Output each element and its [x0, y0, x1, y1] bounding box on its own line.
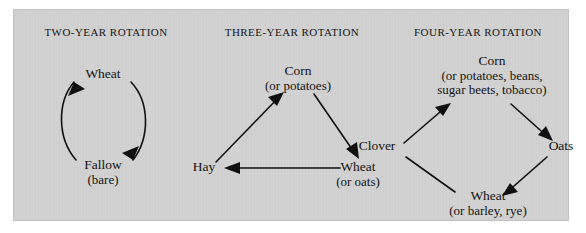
node-label-main: Wheat: [340, 159, 375, 174]
node-label-main: Oats: [549, 138, 574, 153]
arrowhead-to-wheat: [68, 82, 85, 96]
arrow-hay-to-corn: [216, 95, 281, 162]
node-label-main: Hay: [193, 159, 216, 174]
node-label-main: Wheat: [85, 66, 120, 81]
arrow-wheat-to-fallow: [131, 82, 146, 160]
node-three-year-corn: Corn (or potatoes): [235, 64, 361, 93]
node-label-sub: (or potatoes): [235, 79, 361, 94]
title-two-year: TWO-YEAR ROTATION: [14, 26, 198, 38]
node-label-main: Corn: [285, 63, 312, 78]
arrowhead-to-corn: [268, 92, 284, 106]
node-label-main: Corn: [479, 53, 506, 68]
node-two-year-wheat: Wheat: [58, 67, 148, 82]
node-label-sub: (or oats): [312, 175, 404, 190]
arrowhead-to-hay: [224, 162, 240, 174]
node-two-year-fallow: Fallow (bare): [58, 158, 148, 187]
line-wheat-to-clover: [406, 157, 455, 192]
node-label-sub: (bare): [58, 173, 148, 188]
figure-page: TWO-YEAR ROTATION THREE-YEAR ROTATION FO…: [0, 0, 586, 233]
node-label-main: Fallow: [84, 157, 122, 172]
arrow-fallow-to-wheat: [61, 82, 76, 160]
node-label-main: Clover: [359, 138, 396, 153]
node-label-main: Wheat: [470, 188, 505, 203]
node-four-year-clover: Clover: [346, 139, 408, 154]
node-label-sub2: sugar beets, tobacco): [404, 83, 580, 98]
node-three-year-hay: Hay: [183, 160, 225, 175]
title-four-year: FOUR-YEAR ROTATION: [386, 26, 570, 38]
node-four-year-corn: Corn (or potatoes, beans, sugar beets, t…: [404, 54, 580, 98]
diagram-panel: TWO-YEAR ROTATION THREE-YEAR ROTATION FO…: [13, 9, 569, 221]
node-label-sub: (or barley, rye): [421, 204, 555, 219]
node-three-year-wheat: Wheat (or oats): [312, 160, 404, 189]
node-label-sub: (or potatoes, beans,: [404, 69, 580, 84]
node-four-year-wheat: Wheat (or barley, rye): [421, 189, 555, 218]
title-three-year: THREE-YEAR ROTATION: [196, 26, 388, 38]
node-four-year-oats: Oats: [536, 139, 586, 154]
